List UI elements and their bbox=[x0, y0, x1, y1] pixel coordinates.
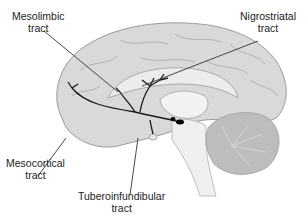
cerebellum bbox=[206, 113, 279, 175]
label-mesocortical: Mesocortical tract bbox=[6, 157, 65, 181]
label-tuberoinfundibular: Tuberoinfundibular tract bbox=[78, 190, 165, 214]
label-mesolimbic: Mesolimbic tract bbox=[12, 10, 65, 34]
pituitary bbox=[149, 134, 157, 140]
label-nigrostriatal: Nigrostriatal tract bbox=[240, 10, 296, 34]
substantia-nigra bbox=[176, 120, 184, 125]
vta bbox=[171, 117, 176, 121]
